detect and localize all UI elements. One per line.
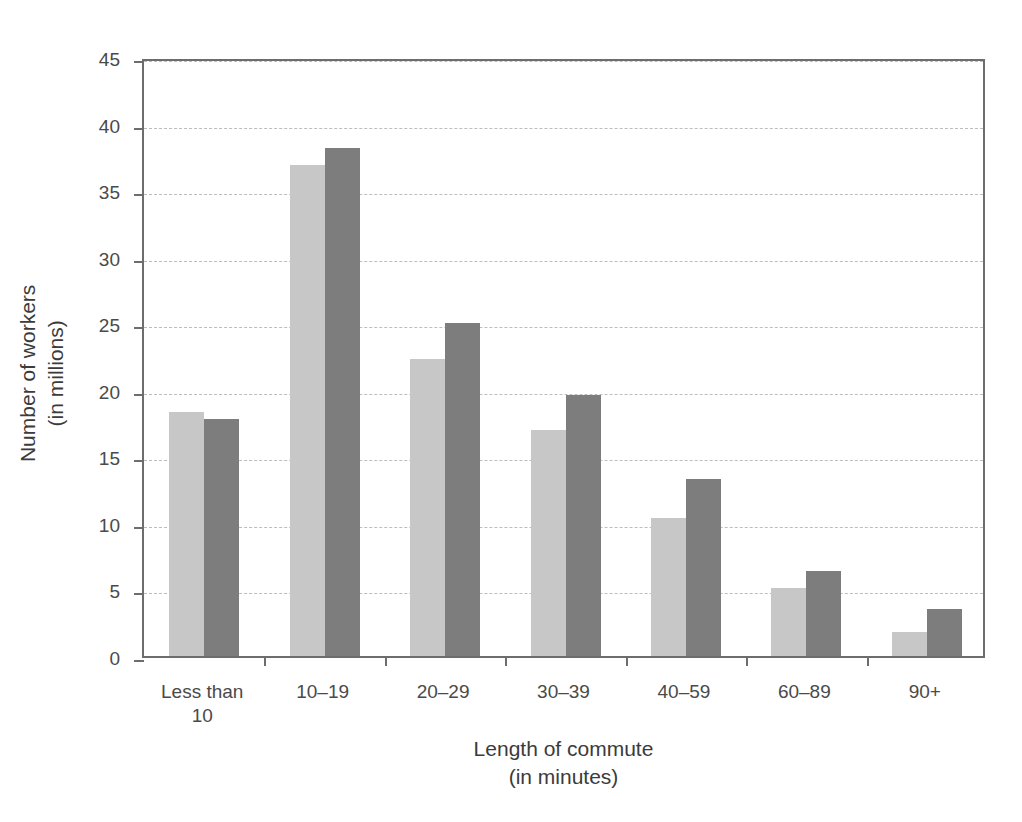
bar-chart-figure: Number of workers (in millions) 05101520… bbox=[0, 0, 1022, 822]
bar-1990-2 bbox=[410, 359, 445, 656]
gridline bbox=[144, 261, 983, 262]
x-axis-tick bbox=[626, 656, 628, 666]
y-axis-tick-label: 10 bbox=[74, 516, 120, 535]
bar-1990-1 bbox=[290, 165, 325, 656]
bar-2000-2 bbox=[445, 323, 480, 656]
x-axis-title: Length of commute (in minutes) bbox=[142, 735, 985, 792]
y-axis-tick bbox=[134, 128, 144, 130]
y-axis-tick-label: 15 bbox=[74, 449, 120, 468]
y-axis-tick bbox=[134, 61, 144, 63]
y-axis-tick bbox=[134, 527, 144, 529]
bar-1990-4 bbox=[651, 518, 686, 656]
y-axis-tick-label: 40 bbox=[74, 117, 120, 136]
x-axis-tick bbox=[505, 656, 507, 666]
bar-2000-4 bbox=[686, 479, 721, 656]
x-axis-tick bbox=[385, 656, 387, 666]
gridline bbox=[144, 327, 983, 328]
bar-2000-3 bbox=[566, 395, 601, 656]
plot-area: 1990 2000 bbox=[142, 59, 985, 658]
y-axis-tick-label: 5 bbox=[74, 582, 120, 601]
bar-1990-0 bbox=[169, 412, 204, 656]
y-axis-tick bbox=[134, 593, 144, 595]
y-axis-tick bbox=[134, 460, 144, 462]
gridline bbox=[144, 394, 983, 395]
bar-1990-6 bbox=[892, 632, 927, 656]
bar-2000-0 bbox=[204, 419, 239, 656]
y-axis-tick-label: 0 bbox=[74, 649, 120, 668]
y-axis-tick bbox=[134, 261, 144, 263]
gridline bbox=[144, 128, 983, 129]
gridline bbox=[144, 61, 983, 62]
y-axis-tick-label: 35 bbox=[74, 183, 120, 202]
y-axis-tick bbox=[134, 660, 144, 662]
x-axis-tick bbox=[264, 656, 266, 666]
gridline bbox=[144, 194, 983, 195]
y-axis-tick-label: 30 bbox=[74, 250, 120, 269]
x-axis-tick bbox=[746, 656, 748, 666]
x-axis-tick bbox=[867, 656, 869, 666]
bar-2000-5 bbox=[806, 571, 841, 656]
y-axis-tick bbox=[134, 394, 144, 396]
y-axis-tick bbox=[134, 327, 144, 329]
y-axis-tick-label: 20 bbox=[74, 383, 120, 402]
y-axis-tick-label: 25 bbox=[74, 316, 120, 335]
bar-2000-6 bbox=[927, 609, 962, 656]
bar-1990-3 bbox=[531, 430, 566, 656]
bar-1990-5 bbox=[771, 588, 806, 656]
x-axis-tick-label: 90+ bbox=[835, 680, 1015, 704]
bar-2000-1 bbox=[325, 148, 360, 656]
y-axis-tick-label: 45 bbox=[74, 50, 120, 69]
y-axis-title: Number of workers (in millions) bbox=[14, 73, 71, 673]
y-axis-tick bbox=[134, 194, 144, 196]
